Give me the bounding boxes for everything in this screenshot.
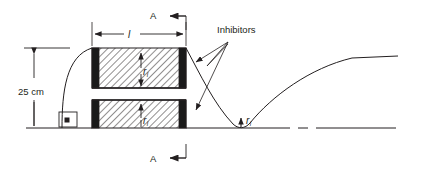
lower-inhibitor-right xyxy=(179,100,186,128)
section-marker-top xyxy=(170,16,186,30)
section-marker-bottom xyxy=(170,144,186,158)
length-dimension-label: l xyxy=(128,29,131,40)
inhibitors-callout-label: Inhibitors xyxy=(217,24,256,35)
lower-grain-block xyxy=(92,100,186,128)
engineering-cross-section-diagram: 25 cm l A A xyxy=(0,0,426,172)
upper-inhibitor-left xyxy=(92,48,99,88)
upper-inhibitor-right xyxy=(179,48,186,88)
section-marker-bottom-label: A xyxy=(150,153,157,164)
upper-grain-block xyxy=(92,48,186,88)
lower-inhibitor-left xyxy=(92,100,99,128)
height-dimension-label: 25 cm xyxy=(18,86,44,97)
figure-canvas: 25 cm l A A xyxy=(0,0,426,172)
throat-radius-label: ri xyxy=(246,115,252,127)
length-dimension-l xyxy=(92,22,186,46)
section-marker-top-label: A xyxy=(150,10,157,21)
